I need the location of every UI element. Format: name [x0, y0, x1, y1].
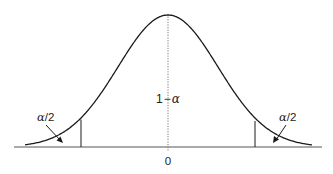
label-minus: − [164, 92, 171, 106]
right-tail-half: /2 [287, 111, 297, 123]
label-one: 1 [156, 92, 163, 106]
left-tail-label: α/2 [37, 110, 54, 124]
normal-distribution-diagram: 1−α α/2 α/2 0 [0, 0, 333, 174]
confidence-area-label: 1−α [156, 92, 180, 106]
axis-zero-label: 0 [165, 155, 171, 167]
right-tail-label: α/2 [279, 110, 296, 124]
left-tail-half: /2 [45, 111, 55, 123]
label-alpha: α [172, 92, 180, 106]
